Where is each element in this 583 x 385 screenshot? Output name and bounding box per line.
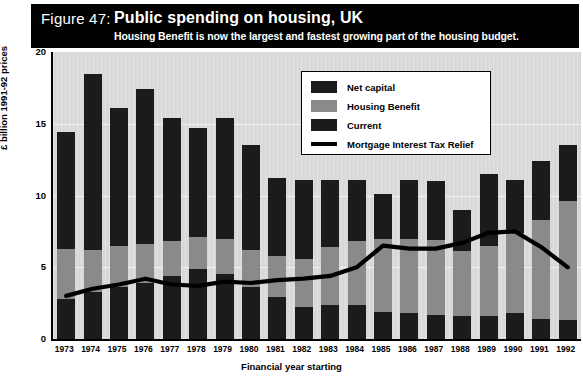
y-axis-tick-label: 20 <box>14 47 46 56</box>
texture-band <box>289 52 290 339</box>
bar-segment-current <box>532 319 550 339</box>
bar-segment-current <box>163 276 181 339</box>
x-axis-label: Financial year starting <box>0 361 583 372</box>
bar-segment-net-capital <box>242 145 260 250</box>
bar-segment-current <box>559 320 577 339</box>
texture-band <box>77 52 78 339</box>
legend-item-label: Housing Benefit <box>347 101 420 112</box>
figure-subtitle: Housing Benefit is now the largest and f… <box>114 30 519 42</box>
y-axis-tick-label: 5 <box>14 262 46 271</box>
bar-segment-current <box>480 316 498 339</box>
texture-band <box>53 52 54 339</box>
bar-segment-housing-benefit <box>295 259 313 308</box>
bar-segment-housing-benefit <box>506 233 524 313</box>
bar-segment-current <box>453 316 471 339</box>
bar-segment-housing-benefit <box>216 239 234 275</box>
bar-segment-housing-benefit <box>321 247 339 304</box>
legend-color-swatch <box>311 81 337 93</box>
bar-segment-housing-benefit <box>348 241 366 304</box>
bar-1984 <box>348 180 366 339</box>
bar-1983 <box>321 180 339 339</box>
bar-segment-current <box>295 307 313 339</box>
bar-segment-net-capital <box>216 118 234 239</box>
bar-segment-current <box>348 305 366 339</box>
bar-segment-current <box>136 283 154 339</box>
bar-segment-current <box>110 287 128 339</box>
bar-segment-net-capital <box>480 174 498 246</box>
bar-1973 <box>57 132 75 339</box>
chart-legend: Net capitalHousing BenefitCurrentMortgag… <box>301 71 491 155</box>
bar-segment-housing-benefit <box>163 241 181 275</box>
bar-segment-housing-benefit <box>453 251 471 316</box>
y-axis-tick-label: 15 <box>14 119 46 128</box>
legend-item-current[interactable]: Current <box>311 117 381 133</box>
bar-segment-current <box>84 292 102 339</box>
texture-band <box>265 52 266 339</box>
title-banner: Figure 47: Public spending on housing, U… <box>31 4 579 48</box>
bar-segment-housing-benefit <box>110 246 128 288</box>
bar-segment-net-capital <box>189 128 207 237</box>
bar-segment-housing-benefit <box>268 256 286 298</box>
bar-segment-housing-benefit <box>84 250 102 292</box>
bar-segment-housing-benefit <box>189 237 207 269</box>
bar-segment-net-capital <box>163 118 181 241</box>
figure-number: Figure 47: <box>41 10 111 27</box>
legend-item-mortgage-interest-tax-relief[interactable]: Mortgage Interest Tax Relief <box>311 136 474 152</box>
bar-segment-net-capital <box>400 180 418 239</box>
bar-1991 <box>532 161 550 339</box>
texture-band <box>105 52 106 339</box>
bar-1974 <box>84 74 102 339</box>
bar-segment-net-capital <box>84 74 102 251</box>
bar-1975 <box>110 108 128 339</box>
texture-band <box>209 52 210 339</box>
bar-1986 <box>400 180 418 339</box>
bar-segment-net-capital <box>374 194 392 238</box>
legend-color-swatch <box>311 119 337 131</box>
bar-segment-housing-benefit <box>532 220 550 319</box>
texture-band <box>129 52 130 339</box>
bar-segment-current <box>427 315 445 339</box>
bar-segment-net-capital <box>453 210 471 252</box>
bar-segment-current <box>57 299 75 339</box>
bar-segment-net-capital <box>136 89 154 244</box>
bar-1977 <box>163 118 181 339</box>
y-axis-tick-label: 0 <box>14 334 46 343</box>
texture-band <box>529 52 530 339</box>
bar-segment-housing-benefit <box>400 239 418 314</box>
bar-segment-current <box>400 313 418 339</box>
bar-segment-housing-benefit <box>136 244 154 283</box>
texture-band <box>157 52 158 339</box>
y-axis-tick-label: 10 <box>14 191 46 200</box>
bar-segment-net-capital <box>268 178 286 255</box>
texture-band <box>185 52 186 339</box>
bar-segment-housing-benefit <box>374 239 392 312</box>
figure-container: Figure 47: Public spending on housing, U… <box>0 0 583 385</box>
legend-line-marker <box>311 142 337 146</box>
legend-item-label: Net capital <box>347 82 395 93</box>
bar-segment-net-capital <box>559 145 577 201</box>
bar-1990 <box>506 180 524 339</box>
texture-band <box>525 52 526 339</box>
legend-item-label: Current <box>347 120 381 131</box>
legend-item-label: Mortgage Interest Tax Relief <box>347 139 474 150</box>
texture-band <box>133 52 134 339</box>
legend-item-housing-benefit[interactable]: Housing Benefit <box>311 98 420 114</box>
x-axis-tick-label: 1992 <box>551 344 581 354</box>
bar-segment-net-capital <box>295 180 313 259</box>
bar-segment-housing-benefit <box>427 240 445 315</box>
bar-1989 <box>480 174 498 339</box>
bar-segment-housing-benefit <box>242 250 260 287</box>
plot-area: Net capitalHousing BenefitCurrentMortgag… <box>51 52 581 341</box>
bar-1987 <box>427 181 445 339</box>
bar-segment-net-capital <box>321 180 339 247</box>
bar-segment-current <box>321 305 339 339</box>
bar-1980 <box>242 145 260 339</box>
bar-segment-housing-benefit <box>559 201 577 320</box>
bar-segment-current <box>506 313 524 339</box>
bar-segment-current <box>374 312 392 339</box>
y-axis-label: £ billion 1991-92 prices <box>0 46 9 150</box>
texture-band <box>81 52 82 339</box>
bar-1981 <box>268 178 286 339</box>
legend-item-net-capital[interactable]: Net capital <box>311 79 395 95</box>
legend-color-swatch <box>311 100 337 112</box>
